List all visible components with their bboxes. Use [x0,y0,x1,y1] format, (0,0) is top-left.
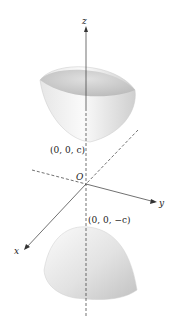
lower-sheet [44,227,137,300]
y-axis-label: y [158,198,165,208]
lower-vertex-label: (0, 0, −c) [88,215,131,225]
x-axis-label: x [14,246,19,256]
upper-sheet [40,67,135,142]
z-axis-label: z [81,16,87,26]
origin-label: O [76,172,84,182]
hyperboloid-diagram: z y x O (0, 0, c) (0, 0, −c) [0,0,178,333]
y-arrow-icon [150,199,157,204]
z-arrow-icon [84,26,88,32]
upper-vertex-label: (0, 0, c) [50,145,85,155]
